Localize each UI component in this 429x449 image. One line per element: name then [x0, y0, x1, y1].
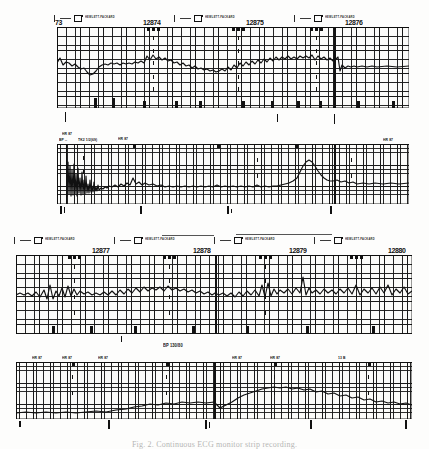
pressure-trace-top: [57, 144, 409, 204]
header-tick-icon: [114, 237, 115, 244]
brand-label: HEWLETT-PACKARD: [45, 238, 75, 241]
pressure-trace-bottom: [16, 362, 412, 419]
header-tick-icon: [214, 237, 215, 244]
panel-2-annotation: BP --: [59, 139, 67, 143]
hp-logo-icon: [194, 15, 202, 22]
header-rule-icon: [300, 18, 311, 19]
strip-number: 12875: [246, 18, 263, 26]
panel-3-grid-paper: [16, 255, 412, 334]
header-rule-icon: [180, 18, 191, 19]
header-rule-icon: [320, 240, 331, 241]
event-tick: [231, 209, 232, 213]
event-tick: [19, 421, 21, 427]
header-rule-icon: [20, 240, 31, 241]
panel-2-grid-paper: [57, 144, 409, 204]
header-segment: HEWLETT-PACKARD: [314, 234, 414, 246]
panel-4-annotation: HR 87: [98, 357, 108, 361]
printer-header-row: HEWLETT-PACKARD HEWLETT-PACKARD HEWLETT-…: [14, 234, 414, 246]
strip-number: 12876: [345, 18, 362, 26]
brand-label: HEWLETT-PACKARD: [345, 238, 375, 241]
panel-4-annotation: HR 87: [232, 357, 242, 361]
header-tick-icon: [174, 15, 175, 22]
hp-logo-icon: [34, 237, 42, 244]
event-tick: [209, 422, 210, 428]
header-overline: [162, 235, 214, 236]
strip-number: 73: [55, 18, 62, 26]
header-segment: HEWLETT-PACKARD: [174, 12, 294, 24]
strip-number: 12877: [92, 246, 109, 254]
panel-2-annotation: HR 87: [383, 139, 393, 143]
ecg-trace-bottom: [16, 255, 412, 334]
panel-2-annotation: HR 87: [118, 138, 128, 142]
brand-label: HEWLETT-PACKARD: [85, 16, 115, 19]
strip-number: 12879: [289, 246, 306, 254]
panel-4-header: [16, 336, 412, 352]
brand-label: HEWLETT-PACKARD: [145, 238, 175, 241]
header-tick-icon: [14, 237, 15, 244]
header-segment: HEWLETT-PACKARD: [14, 234, 114, 246]
panel-4-annotation: HR 87: [32, 357, 42, 361]
event-tick: [405, 420, 407, 429]
hp-logo-icon: [134, 237, 142, 244]
header-rule-icon: [120, 240, 131, 241]
panel-4-annotation: BP 130/80: [163, 344, 183, 349]
panel-1-grid-paper: [57, 27, 409, 108]
brand-label: HEWLETT-PACKARD: [205, 16, 235, 19]
panel-4-annotation: HR 87: [62, 357, 72, 361]
event-tick: [310, 420, 312, 429]
panel-3-header: HEWLETT-PACKARD HEWLETT-PACKARD HEWLETT-…: [14, 234, 414, 248]
event-tick: [64, 207, 65, 213]
ecg-figure: HEWLETT-PACKARD HEWLETT-PACKARD HEWLETT-…: [0, 0, 429, 449]
header-tick-icon: [314, 237, 315, 244]
ecg-trace-top: [57, 27, 409, 108]
hp-logo-icon: [334, 237, 342, 244]
event-tick: [330, 206, 332, 214]
strip-number: 12880: [388, 246, 405, 254]
event-tick: [60, 206, 62, 214]
figure-caption: Fig. 2. Continuous ECG monitor strip rec…: [0, 440, 429, 449]
header-segment: HEWLETT-PACKARD: [214, 234, 314, 246]
panel-2-annotation: TK2 1/2(69): [78, 139, 97, 143]
panel-2-annotation: HR 87: [62, 133, 72, 137]
panel-2-header: [57, 112, 409, 130]
event-tick: [140, 206, 142, 214]
brand-label: HEWLETT-PACKARD: [245, 238, 275, 241]
event-blip: [277, 114, 278, 122]
hp-logo-icon: [234, 237, 242, 244]
hp-logo-icon: [74, 15, 82, 22]
event-blip: [121, 336, 122, 342]
event-blip: [65, 112, 66, 122]
panel-4-grid-paper: [16, 362, 412, 419]
panel-4-annotation: 13 B: [338, 357, 346, 361]
strip-number: 12874: [143, 18, 160, 26]
event-tick: [205, 420, 207, 429]
event-blip: [334, 114, 335, 124]
header-rule-icon: [220, 240, 231, 241]
panel-4-annotation: HR 87: [270, 357, 280, 361]
header-tick-icon: [294, 15, 295, 22]
strip-number: 12878: [193, 246, 210, 254]
hp-logo-icon: [314, 15, 322, 22]
event-tick: [227, 206, 229, 214]
event-tick: [108, 420, 110, 429]
header-overline: [236, 234, 332, 235]
